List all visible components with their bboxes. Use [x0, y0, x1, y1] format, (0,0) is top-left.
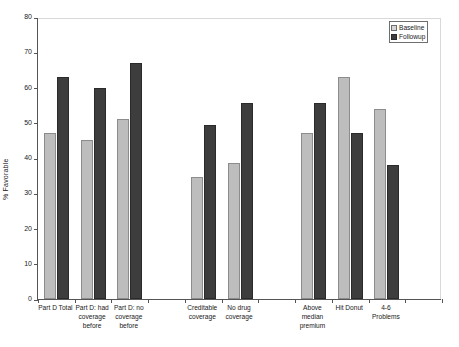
- bar-baseline-2: [117, 119, 129, 299]
- bar-followup-6: [351, 133, 363, 299]
- y-tick-label: 40: [14, 154, 32, 161]
- bar-followup-1: [94, 88, 106, 300]
- y-tick-label: 30: [14, 189, 32, 196]
- baseline-swatch-icon: [391, 25, 397, 31]
- bar-baseline-3: [191, 177, 203, 299]
- y-tick-label: 20: [14, 225, 32, 232]
- bar-followup-7: [387, 165, 399, 299]
- chart-legend: Baseline Followup: [389, 21, 428, 43]
- x-axis-labels: Part D TotalPart D: hadcoveragebeforePar…: [37, 303, 441, 347]
- y-tick-label: 80: [14, 13, 32, 20]
- x-label-7: 4-6Problems: [356, 303, 416, 321]
- legend-label-followup: Followup: [399, 33, 425, 40]
- y-tick-label: 10: [14, 260, 32, 267]
- plot-area: 01020304050607080: [37, 18, 441, 300]
- bar-baseline-0: [44, 133, 56, 299]
- y-tick-label: 60: [14, 84, 32, 91]
- x-label-2: Part D: nocoveragebefore: [99, 303, 159, 330]
- legend-item-baseline: Baseline: [391, 23, 425, 32]
- y-tick-label: 50: [14, 119, 32, 126]
- bar-chart: % Favorable 01020304050607080 Part D Tot…: [0, 0, 459, 347]
- bar-followup-2: [130, 63, 142, 299]
- y-tick-label: 0: [14, 295, 32, 302]
- bar-followup-4: [241, 103, 253, 299]
- bar-baseline-7: [374, 109, 386, 299]
- bar-baseline-1: [81, 140, 93, 299]
- bar-baseline-4: [228, 163, 240, 299]
- bar-followup-0: [57, 77, 69, 299]
- bar-followup-5: [314, 103, 326, 299]
- followup-swatch-icon: [391, 34, 397, 40]
- legend-label-baseline: Baseline: [399, 24, 424, 31]
- bar-baseline-5: [301, 133, 313, 299]
- bar-baseline-6: [338, 77, 350, 299]
- bar-followup-3: [204, 125, 216, 299]
- x-label-4: No drugcoverage: [209, 303, 269, 321]
- y-axis-title: % Favorable: [2, 186, 9, 200]
- y-tick-label: 70: [14, 48, 32, 55]
- bars-layer: [38, 18, 441, 299]
- legend-item-followup: Followup: [391, 32, 425, 41]
- x-tick-mark: [442, 299, 443, 303]
